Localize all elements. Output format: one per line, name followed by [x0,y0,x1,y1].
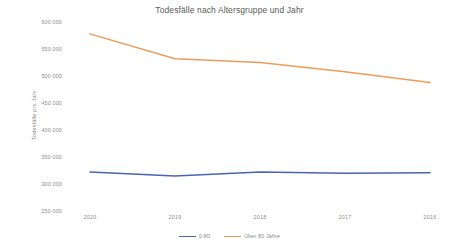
x-axis-tick-label: 2020 [84,214,97,220]
x-axis-tick-label: 2017 [339,214,352,220]
series-line [90,34,430,83]
legend-item-label: 0-80 [199,234,210,239]
legend-item[interactable]: 0-80 [179,234,210,239]
series-line [90,172,430,176]
plot-area [0,0,459,249]
legend-item-label: Über 80 Jahre [244,234,280,239]
series-layer [90,34,430,176]
legend-line-icon [224,236,241,237]
chart-legend: 0-80Über 80 Jahre [0,234,459,239]
x-axis-tick-label: 2019 [169,214,182,220]
chart-container: Todesfälle nach Altersgruppe und Jahr To… [0,0,459,249]
legend-line-icon [179,236,196,237]
x-axis-tick-label: 2018 [254,214,267,220]
legend-item[interactable]: Über 80 Jahre [224,234,280,239]
x-axis-tick-label: 2016 [424,214,437,220]
